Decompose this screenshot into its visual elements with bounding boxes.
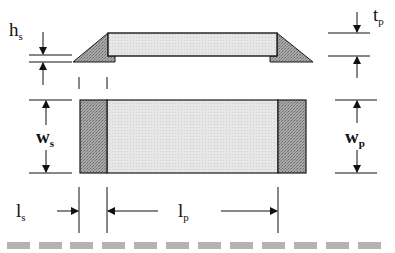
label-lp-sub: p (183, 211, 189, 223)
label-wp: wp (345, 127, 365, 146)
dashed-baseline (7, 242, 381, 249)
label-lp: lp (178, 201, 189, 220)
length-dimensions (57, 187, 278, 233)
left-solder-top (80, 100, 107, 173)
pad-top (107, 100, 278, 173)
side-profile (73, 33, 313, 62)
right-solder-top (278, 100, 306, 173)
tp-dimension (328, 12, 370, 78)
label-ws: ws (36, 127, 54, 146)
label-hs: hs (9, 20, 23, 39)
diagram-canvas (0, 0, 395, 253)
label-hs-sub: s (19, 30, 23, 42)
label-wp-main: w (345, 126, 359, 147)
label-ls-sub: s (21, 211, 25, 223)
label-ls: ls (16, 201, 26, 220)
label-tp: tp (373, 5, 384, 24)
pad-profile (108, 33, 277, 56)
label-ws-sub: s (50, 137, 54, 149)
label-wp-sub: p (359, 137, 365, 149)
top-view (80, 100, 306, 173)
label-hs-main: h (9, 19, 19, 40)
label-tp-sub: p (378, 15, 384, 27)
alignment-ticks (79, 77, 107, 89)
hs-dimension (29, 32, 72, 85)
label-ws-main: w (36, 126, 50, 147)
